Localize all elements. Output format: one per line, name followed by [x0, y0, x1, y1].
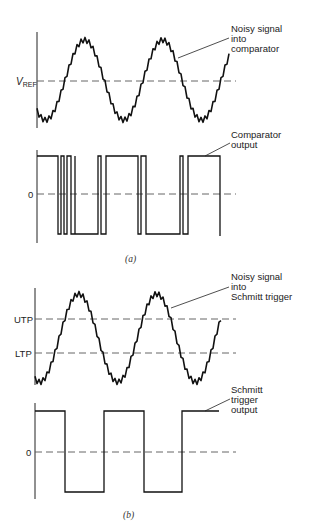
signal-pointer-arrow	[171, 287, 229, 308]
vref-label: VREF	[16, 76, 37, 88]
panel-a: VREF Noisy signal into comparator 0 Comp…	[16, 23, 282, 265]
zero-label: 0	[26, 447, 31, 458]
output-label-line-2: output	[231, 139, 258, 150]
output-pointer-arrow	[205, 143, 230, 156]
comparator-vs-schmitt-diagram: VREF Noisy signal into comparator 0 Comp…	[0, 0, 311, 529]
caption-a: (a)	[125, 254, 136, 265]
panel-b-output-plot: 0 Schmitt trigger output	[26, 384, 263, 499]
zero-label: 0	[28, 189, 33, 200]
panel-a-output-plot: 0 Comparator output	[28, 129, 281, 243]
noisy-signal-curve	[35, 291, 221, 384]
panel-b-input-plot: UTP LTP Noisy signal into Schmitt trigge…	[14, 271, 292, 385]
output-pointer-arrow	[205, 399, 230, 411]
signal-label-line-3: Schmitt trigger	[231, 291, 292, 302]
schmitt-output-waveform	[35, 411, 219, 492]
comparator-output-waveform	[37, 156, 220, 236]
output-label-line-3: output	[231, 404, 258, 415]
signal-label-line-3: comparator	[231, 43, 279, 54]
ltp-label: LTP	[15, 348, 32, 359]
signal-pointer-arrow	[178, 38, 229, 58]
caption-b: (b)	[123, 510, 134, 521]
panel-b: UTP LTP Noisy signal into Schmitt trigge…	[14, 271, 292, 521]
utp-label: UTP	[14, 314, 33, 325]
panel-a-input-plot: VREF Noisy signal into comparator	[16, 23, 282, 128]
noisy-signal-curve	[37, 37, 229, 122]
